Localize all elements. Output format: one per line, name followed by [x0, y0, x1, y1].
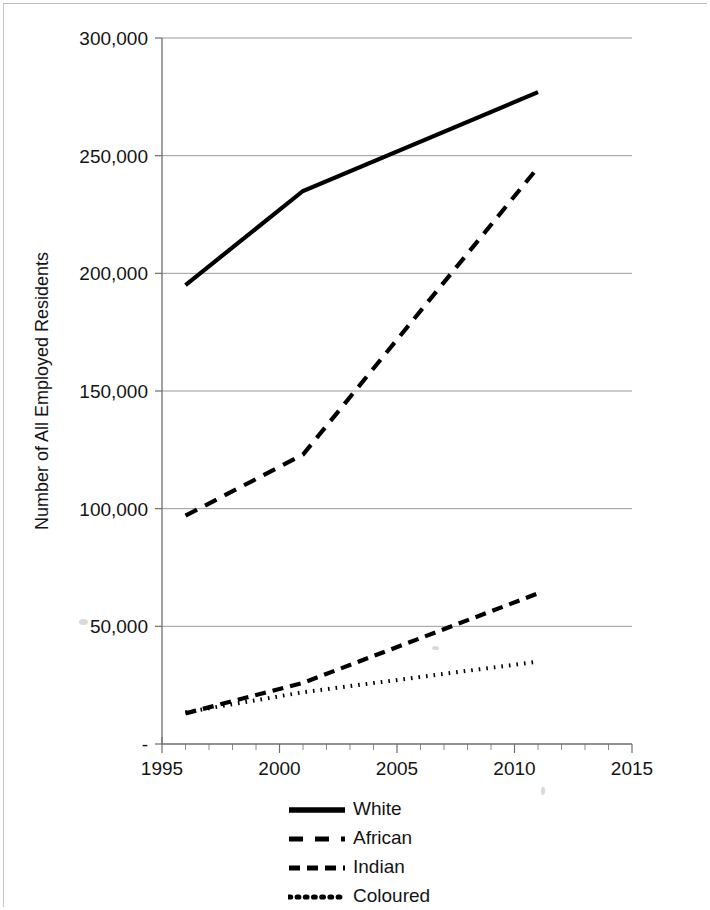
series-line-coloured	[186, 662, 539, 713]
legend-label: Indian	[353, 857, 405, 876]
y-tick-label: 150,000	[79, 381, 148, 402]
x-tick-label: 2010	[493, 758, 535, 779]
series-line-african	[186, 167, 539, 515]
series-line-white	[186, 92, 539, 285]
y-axis-title: Number of All Employed Residents	[32, 252, 52, 530]
x-tick-label: 2015	[611, 758, 653, 779]
legend-swatch-coloured	[288, 889, 346, 901]
legend-label: White	[353, 799, 402, 818]
gridlines-group	[162, 38, 632, 626]
line-chart-svg: -50,000100,000150,000200,000250,000300,0…	[0, 0, 710, 800]
x-tick-label: 2005	[376, 758, 418, 779]
legend-item-coloured[interactable]: Coloured	[288, 882, 430, 908]
y-tick-label: -	[142, 734, 148, 755]
y-tick-label: 250,000	[79, 146, 148, 167]
legend-item-african[interactable]: African	[288, 824, 430, 850]
scan-artifact-speck	[79, 619, 88, 625]
y-tick-label: 300,000	[79, 28, 148, 49]
legend-items: WhiteAfricanIndianColoured	[288, 795, 430, 908]
legend-label: Coloured	[353, 886, 430, 905]
chart-legend: WhiteAfricanIndianColoured	[0, 795, 710, 910]
y-tick-labels-group: -50,000100,000150,000200,000250,000300,0…	[79, 28, 148, 755]
plot-area: -50,000100,000150,000200,000250,000300,0…	[0, 0, 710, 800]
tickmarks-group	[155, 38, 632, 753]
legend-item-indian[interactable]: Indian	[288, 853, 430, 879]
legend-swatch-white	[288, 802, 346, 814]
legend-label: African	[353, 828, 412, 847]
series-line-indian	[186, 593, 539, 713]
x-tick-labels-group: 19952000200520102015	[141, 758, 653, 779]
x-tick-label: 2000	[258, 758, 300, 779]
series-group	[186, 92, 539, 713]
x-tick-label: 1995	[141, 758, 183, 779]
scan-artifact-speck	[541, 787, 545, 795]
scan-artifact-speck	[432, 646, 439, 650]
legend-swatch-african	[288, 831, 346, 843]
legend-item-white[interactable]: White	[288, 795, 430, 821]
y-tick-label: 50,000	[90, 616, 148, 637]
y-tick-label: 200,000	[79, 263, 148, 284]
y-tick-label: 100,000	[79, 499, 148, 520]
legend-swatch-indian	[288, 860, 346, 872]
chart-figure: -50,000100,000150,000200,000250,000300,0…	[0, 0, 710, 910]
